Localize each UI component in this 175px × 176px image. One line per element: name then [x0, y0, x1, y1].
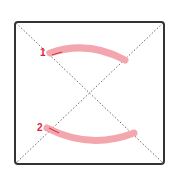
stroke-label-1: 1	[40, 47, 46, 58]
gesture-stroke-2	[47, 128, 134, 140]
gesture-diagram: 12	[0, 0, 175, 176]
gesture-stroke-1	[50, 48, 125, 60]
stroke-label-2: 2	[37, 122, 43, 133]
